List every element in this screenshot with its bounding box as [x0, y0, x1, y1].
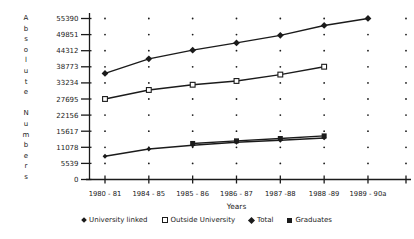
y-axis: [81, 13, 92, 180]
legend-label-university-linked: University linked: [89, 216, 147, 224]
legend-item-total: Total: [249, 216, 273, 224]
legend-item-graduates: Graduates: [287, 216, 331, 224]
x-axis: [86, 176, 411, 184]
total-marker-icon: [248, 216, 255, 223]
svg-text:44312: 44312: [56, 47, 78, 55]
svg-text:22156: 22156: [56, 112, 79, 120]
svg-text:0: 0: [74, 176, 78, 184]
line-chart: 5539049851443123877333234276952215615617…: [0, 0, 414, 214]
svg-text:1987 -88: 1987 -88: [265, 190, 296, 198]
svg-text:1988 -89: 1988 -89: [309, 190, 340, 198]
legend-item-university-linked: University linked: [82, 216, 147, 224]
graduates-marker-icon: [287, 218, 292, 223]
svg-text:1989 - 90a: 1989 - 90a: [350, 190, 387, 198]
legend-item-outside-university: Outside University: [162, 216, 236, 224]
svg-text:55390: 55390: [56, 15, 78, 23]
legend-label-graduates: Graduates: [295, 216, 331, 224]
series-outside-university: [103, 64, 327, 101]
svg-text:49851: 49851: [56, 31, 78, 39]
chart-legend: University linked Outside University Tot…: [0, 216, 414, 224]
svg-text:11078: 11078: [56, 144, 78, 152]
svg-text:33234: 33234: [56, 79, 79, 87]
legend-label-outside-university: Outside University: [171, 216, 236, 224]
legend-label-total: Total: [257, 216, 273, 224]
svg-text:1980 - 81: 1980 - 81: [89, 190, 122, 198]
svg-text:1984 - 85: 1984 - 85: [132, 190, 165, 198]
chart-figure: A b s o l u t e N u m b e r s 5539049851…: [0, 0, 414, 239]
x-axis-tick-labels: 1980 - 811984 - 851985 - 861986 - 871987…: [89, 190, 387, 211]
svg-text:15617: 15617: [56, 128, 78, 136]
svg-text:1986 - 87: 1986 - 87: [220, 190, 253, 198]
series-university-linked: [103, 136, 327, 159]
y-axis-tick-labels: 5539049851443123877333234276952215615617…: [56, 15, 79, 184]
svg-text:27695: 27695: [56, 96, 78, 104]
svg-text:1985 - 86: 1985 - 86: [176, 190, 209, 198]
svg-text:5539: 5539: [61, 160, 79, 168]
x-axis-title: Years: [226, 202, 247, 211]
outside-university-marker-icon: [162, 217, 168, 223]
svg-text:38773: 38773: [56, 63, 78, 71]
university-linked-marker-icon: [81, 217, 87, 223]
